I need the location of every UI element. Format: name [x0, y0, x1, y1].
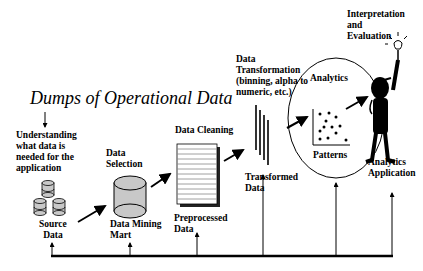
understanding-label: Understanding what data is needed for th… — [16, 130, 77, 174]
arrow-icon — [224, 150, 243, 161]
data-transformation-label: Data Transformation (binning, alpha to n… — [236, 54, 308, 98]
preprocessed-data-label: Preprocessed Data — [174, 213, 227, 235]
arrow-icon — [78, 206, 105, 222]
patterns-label: Patterns — [313, 150, 347, 161]
transformed-data-label: Transformed Data — [245, 172, 298, 194]
patterns-scatter-plot-icon — [313, 109, 350, 145]
analytics-application-label: Analytics Application — [368, 157, 416, 179]
analytics-label: Analytics — [310, 73, 348, 84]
source-data-label: Source Data — [39, 219, 67, 241]
diagram-title: Dumps of Operational Data — [30, 88, 233, 109]
arrow-icon — [346, 97, 367, 109]
source-data-databases-icon — [34, 181, 65, 216]
preprocessed-data-stack-icon — [177, 144, 220, 207]
data-cleaning-label: Data Cleaning — [175, 125, 233, 136]
data-mining-process-diagram: Dumps of Operational Data Understanding … — [0, 0, 423, 271]
data-mining-mart-label: Data Mining Mart — [110, 219, 161, 241]
data-selection-label: Data Selection — [106, 148, 142, 170]
arrow-icon — [287, 117, 307, 128]
interpretation-label: Interpretation and Evaluation — [347, 9, 405, 42]
person-with-idea-icon — [366, 32, 407, 162]
arrow-icon — [151, 174, 170, 187]
transformed-data-bars-icon — [256, 105, 268, 165]
data-mining-mart-cylinder-icon — [114, 176, 146, 218]
